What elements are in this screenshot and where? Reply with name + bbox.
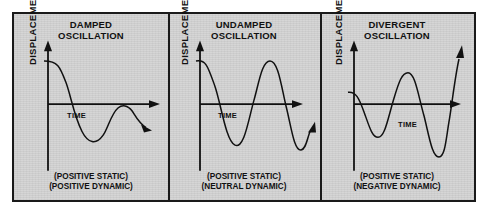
- y-axis-arrowhead-icon: [44, 40, 52, 51]
- panel-caption-undamped-line2: (NEUTRAL DYNAMIC): [168, 182, 320, 192]
- x-axis-arrowhead-icon: [149, 100, 160, 108]
- curve-damped: [44, 61, 146, 142]
- curve-arrowhead-icon: [141, 125, 152, 133]
- y-axis-label-undamped: DISPLACEMENT: [179, 0, 190, 65]
- y-axis-label-divergent: DISPLACEMENT: [333, 0, 344, 65]
- curve-divergent: [348, 59, 459, 157]
- panel-caption-undamped: (POSITIVE STATIC) (NEUTRAL DYNAMIC): [168, 172, 320, 192]
- panel-divergent-oscillation: DIVERGENT OSCILLATION DISPLACEMENT TIME …: [320, 14, 474, 200]
- x-axis-label-damped: TIME: [67, 111, 86, 120]
- panel-caption-damped: (POSITIVE STATIC) (POSITIVE DYNAMIC): [14, 172, 168, 192]
- panel-caption-divergent: (POSITIVE STATIC) (NEGATIVE DYNAMIC): [320, 172, 474, 192]
- panel-caption-divergent-line1: (POSITIVE STATIC): [360, 172, 434, 181]
- panel-caption-divergent-line2: (NEGATIVE DYNAMIC): [320, 182, 474, 192]
- panel-damped-oscillation: DAMPED OSCILLATION DISPLACEMENT TIME (PO…: [14, 14, 168, 200]
- x-axis-arrowhead-icon: [292, 100, 303, 108]
- y-axis-label-damped: DISPLACEMENT: [27, 0, 38, 65]
- x-axis-label-divergent: TIME: [398, 120, 417, 129]
- panel-caption-undamped-line1: (POSITIVE STATIC): [207, 172, 281, 181]
- y-axis-arrowhead-icon: [350, 40, 358, 51]
- figure-frame: DAMPED OSCILLATION DISPLACEMENT TIME (PO…: [12, 12, 476, 202]
- panel-caption-damped-line2: (POSITIVE DYNAMIC): [14, 182, 168, 192]
- panel-undamped-oscillation: UNDAMPED OSCILLATION DISPLACEMENT TIME (…: [168, 14, 320, 200]
- panel-caption-damped-line1: (POSITIVE STATIC): [54, 172, 128, 181]
- y-axis-arrowhead-icon: [196, 40, 204, 51]
- curve-arrowhead-icon: [456, 45, 464, 58]
- curve-arrowhead-icon: [308, 122, 316, 133]
- x-axis-label-undamped: TIME: [218, 111, 237, 120]
